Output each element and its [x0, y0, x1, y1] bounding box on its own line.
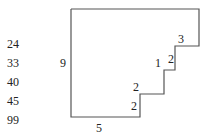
- step-right-label-1: 2: [168, 52, 174, 66]
- step-top-label-3: 2: [133, 80, 139, 94]
- step-right-label-3: 2: [131, 99, 137, 113]
- staircase-diagram: 9 5 3 2 1 2 2: [0, 0, 206, 133]
- step-top-label-1: 3: [178, 32, 184, 46]
- left-edge-label: 9: [60, 56, 66, 70]
- bottom-edge-label: 5: [96, 121, 102, 133]
- step-top-label-2: 1: [155, 56, 161, 70]
